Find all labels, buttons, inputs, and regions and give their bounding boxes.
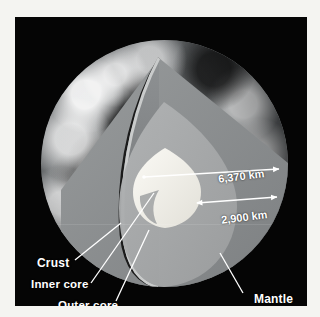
mantle-dimension-line [197,197,277,203]
inner-core-leader-line [91,193,154,283]
inner-core-label: Inner core [31,278,89,290]
crust-leader-line [75,223,121,260]
diagram-plate: Crust Inner core Outer core Mantle 6,370… [15,17,307,306]
mantle-leader-line [220,253,243,293]
radius-origin-dot [142,175,146,179]
outer-core-label: Outer core [58,299,118,306]
diagram-stage: Crust Inner core Outer core Mantle 6,370… [0,0,320,317]
mantle-label: Mantle [254,292,293,306]
crust-label: Crust [37,256,69,270]
